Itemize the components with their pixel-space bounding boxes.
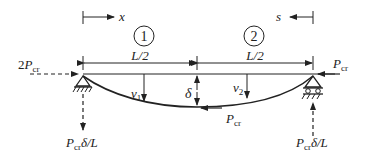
mid-load-label: Pcr [225, 111, 241, 128]
dimension-lines: L/2 [83, 48, 313, 70]
left-reaction-arrow: Pcrδ/L [65, 94, 98, 152]
segment-2-marker: 2 [244, 26, 264, 46]
left-reaction-label: Pcrδ/L [65, 135, 98, 152]
x-axis-arrow: x [83, 9, 125, 24]
left-load-label: 2Pcr [18, 57, 39, 74]
delta-label: δ [185, 86, 192, 101]
deflected-shape [83, 76, 313, 107]
s-axis-arrow: s [276, 9, 313, 24]
v2-label: v2 [233, 80, 243, 97]
segment-2-length: L/2 [245, 48, 264, 63]
left-load-arrow: 2Pcr [18, 57, 78, 74]
x-axis-label: x [118, 9, 125, 24]
segment-2-number: 2 [251, 29, 258, 44]
v1-label: v1 [131, 86, 141, 103]
s-axis-label: s [276, 9, 281, 24]
mid-deflection-delta: δ [185, 76, 197, 105]
segment-1-length: L/2 [130, 48, 149, 63]
mid-internal-load: Pcr [201, 108, 241, 128]
right-load-label: Pcr [332, 56, 348, 73]
deflection-v2: v2 [233, 74, 247, 98]
right-roller-support [302, 76, 323, 99]
left-pinned-support [73, 76, 92, 92]
segment-1-number: 1 [141, 29, 148, 44]
right-reaction-label: Pcrδ/L [295, 135, 328, 152]
right-reaction-arrow: Pcrδ/L [295, 103, 328, 152]
right-load-arrow: Pcr [318, 56, 348, 74]
column-buckling-diagram: x s 1 2 L/2 L/2 2Pcr Pcr [0, 0, 366, 161]
deflection-v1: v1 [131, 74, 144, 103]
segment-1-marker: 1 [134, 26, 154, 46]
